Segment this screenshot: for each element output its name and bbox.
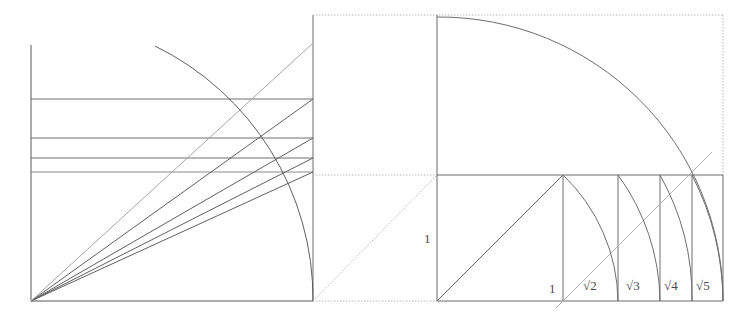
left-arc [155,46,313,301]
right-panel [437,15,723,308]
ray-sqrt3 [31,158,313,301]
label-sqrt4: √4 [664,278,678,294]
geometry-svg [0,0,749,317]
label-base-one: 1 [549,281,556,297]
label-sqrt5: √5 [696,278,710,294]
figure-canvas: 1 1 √2 √3 √4 √5 [0,0,749,317]
ray-sqrt2 [31,172,313,301]
label-sqrt2: √2 [583,278,597,294]
left-panel [31,15,313,301]
label-sqrt3: √3 [626,278,640,294]
dotted-unit-diagonal [313,175,437,301]
middle-panel [313,15,723,301]
ray-sqrt5 [31,99,313,301]
unit-diagonal [437,175,563,301]
label-vertical-one: 1 [424,231,431,247]
ray-sqrt4 [31,138,313,301]
